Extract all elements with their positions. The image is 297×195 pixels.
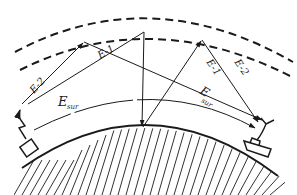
ray-e1-down-ground bbox=[142, 32, 144, 126]
earth-surface bbox=[14, 124, 290, 195]
receiver bbox=[244, 118, 274, 157]
ray-e1-bounce-down bbox=[202, 40, 258, 122]
label-e2-right: E-2 bbox=[232, 56, 251, 77]
label-e1-left: E-1 bbox=[95, 43, 116, 62]
ray-e2-up bbox=[22, 43, 83, 104]
transmitter-antenna-icon bbox=[18, 110, 26, 139]
transmitter bbox=[18, 110, 38, 157]
receiver-antenna-icon bbox=[257, 118, 274, 140]
label-e2-left: E-2 bbox=[27, 75, 47, 96]
label-e1-right: E-1 bbox=[204, 56, 223, 77]
label-esur-left: E sur bbox=[57, 92, 79, 111]
propagation-diagram: E-2 E-1 E-1 E-2 E sur Esur bbox=[0, 0, 297, 195]
receiver-ship-icon bbox=[244, 138, 271, 157]
transmitter-box bbox=[20, 139, 38, 157]
ray-e1-bounce-up bbox=[143, 41, 201, 127]
